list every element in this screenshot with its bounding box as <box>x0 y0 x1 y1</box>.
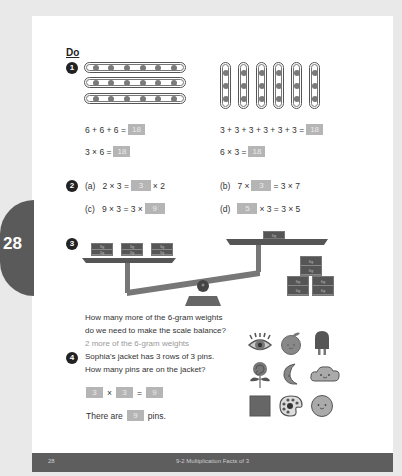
q4-question: Sophia's jacket has 3 rows of 3 pins. Ho… <box>85 350 214 376</box>
q3-answer: 2 more of the 6-gram weights <box>85 337 226 350</box>
dot-column-5 <box>291 62 302 109</box>
popsicle-pin-icon <box>309 330 335 356</box>
answer-box[interactable]: 18 <box>128 124 145 135</box>
q2-part-d: (d)5× 3 = 3 × 5 <box>220 203 300 214</box>
question-number-4: 4 <box>66 352 78 364</box>
answer-box[interactable]: 9 <box>127 410 144 421</box>
weight-6g-stack: 6g6g <box>312 276 334 296</box>
question-number-2: 2 <box>66 180 78 192</box>
q2-part-b: (b)7 ×3= 3 × 7 <box>220 180 300 191</box>
answer-box[interactable]: 5 <box>237 203 257 214</box>
answer-box[interactable]: 18 <box>113 146 130 157</box>
question-number-3: 3 <box>66 238 78 250</box>
dot-column-2 <box>238 62 249 109</box>
answer-box[interactable]: 3 <box>131 180 151 191</box>
weight-6g-stack: 6g6g <box>300 256 322 276</box>
section-label: Do <box>66 47 79 58</box>
dot-column-1 <box>220 62 231 109</box>
answer-box[interactable]: 18 <box>306 124 323 135</box>
dot-column-3 <box>256 62 267 109</box>
q4-equation: 3 × 3 = 9 <box>86 387 163 398</box>
answer-box[interactable]: 18 <box>248 146 265 157</box>
q4-sentence: There are 9 pins. <box>86 410 166 421</box>
dot-row-1 <box>84 62 186 73</box>
answer-box[interactable]: 9 <box>145 203 165 214</box>
moon-pin-icon <box>278 361 304 387</box>
dot-column-6 <box>309 62 320 109</box>
q3-question: How many more of the 6-gram weights do w… <box>85 311 226 350</box>
answer-box[interactable]: 3 <box>86 387 103 398</box>
footer-title: 9-2 Multiplication Facts of 3 <box>32 458 393 464</box>
q1-right-sum: 3 + 3 + 3 + 3 + 3 + 3 =18 <box>220 124 323 135</box>
dot-column-4 <box>273 62 284 109</box>
dot-row-3 <box>84 93 186 104</box>
weight-3g: 3g3g <box>91 243 113 256</box>
eye-pin-icon <box>247 330 273 356</box>
smiley-pin-icon <box>309 393 335 419</box>
chapter-tab-number: 28 <box>3 234 35 254</box>
q1-left-mult: 3 × 6 =18 <box>85 146 130 157</box>
question-number-1: 1 <box>66 62 78 74</box>
cloud-pin-icon <box>309 361 341 387</box>
dot-row-2 <box>84 77 186 88</box>
q2-part-a: (a)2 × 3 =3× 2 <box>85 180 165 191</box>
weight-6g-stack: 6g6g <box>287 276 309 296</box>
page-footer: 28 9-2 Multiplication Facts of 3 <box>32 453 393 472</box>
answer-box[interactable]: 9 <box>146 387 163 398</box>
palette-pin-icon <box>278 393 304 419</box>
q1-left-sum: 6 + 6 + 6 =18 <box>85 124 145 135</box>
q2-part-c: (c)9 × 3 = 3 ×9 <box>85 203 165 214</box>
lollipop-pin-icon <box>247 361 273 387</box>
apple-pin-icon <box>278 330 304 356</box>
weight-3g: 3g3g <box>121 243 143 256</box>
weight-3g: 3g3g <box>151 243 173 256</box>
answer-box[interactable]: 3 <box>251 180 271 191</box>
weight-6g: 6g <box>263 231 285 239</box>
q1-right-mult: 6 × 3 =18 <box>220 146 265 157</box>
answer-box[interactable]: 3 <box>116 387 133 398</box>
square-pin-icon <box>247 393 273 419</box>
